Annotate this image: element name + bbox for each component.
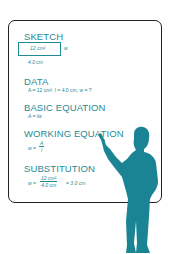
basic-equation-text: A = lw <box>28 113 42 119</box>
working-equation-fraction: A l <box>39 140 44 153</box>
substitution-fraction: 12 cm² 4.0 cm <box>40 175 57 188</box>
substitution-heading: SUBSTITUTION <box>24 163 95 174</box>
working-denominator: l <box>41 147 42 153</box>
sketch-heading: SKETCH <box>24 31 63 42</box>
substitution-result: = 3.0 cm <box>66 180 85 186</box>
sketch-bottom-label: 4.0 cm <box>28 59 43 65</box>
basic-equation-heading: BASIC EQUATION <box>24 102 105 113</box>
working-equation-lhs: w = <box>28 145 36 151</box>
substitution-lhs: w = <box>28 180 36 186</box>
data-heading: DATA <box>24 76 48 87</box>
sketch-side-label: w <box>64 45 68 51</box>
substitution-denominator: 4.0 cm <box>41 182 56 188</box>
data-text: A = 12 cm², l = 4.0 cm, w = ? <box>28 87 92 93</box>
teacher-silhouette-icon <box>92 125 162 254</box>
sketch-area-label: 12 cm² <box>30 45 45 51</box>
substitution-numerator: 12 cm² <box>40 175 57 182</box>
working-numerator: A <box>39 140 44 147</box>
